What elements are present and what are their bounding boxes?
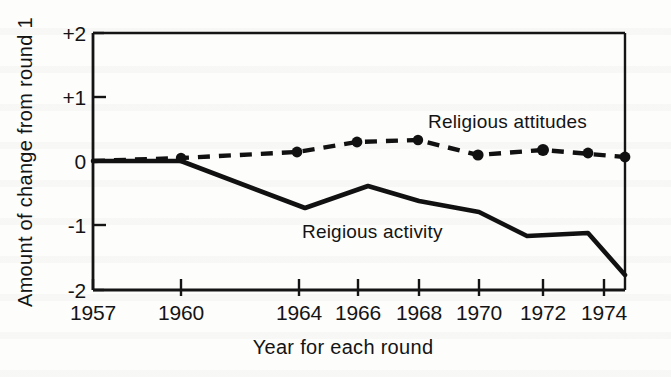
x-tick-label-1968: 1968 — [396, 301, 442, 324]
series-line-reigious-activity — [93, 161, 625, 275]
x-axis-title: Year for each round — [253, 336, 434, 358]
y-tick-label-zero: 0 — [75, 150, 86, 173]
data-point-marker — [292, 147, 303, 158]
x-tick-label-1972: 1972 — [520, 301, 566, 324]
data-point-marker — [620, 152, 631, 163]
x-tick-label-1964: 1964 — [276, 301, 322, 324]
series-label-reigious-activity: Reigious activity — [302, 221, 443, 242]
data-point-marker — [352, 137, 363, 148]
y-tick-label-minus2: -2 — [68, 279, 86, 302]
y-tick-labels: +2 +1 0 -1 -2 — [62, 22, 86, 302]
data-point-marker — [583, 148, 594, 159]
data-point-marker — [537, 144, 549, 156]
line-chart: +2 +1 0 -1 -2 1957 1960 1964 1966 1968 1… — [0, 0, 671, 377]
series-label-religious-attitudes: Religious attitudes — [428, 111, 587, 132]
chart-figure: +2 +1 0 -1 -2 1957 1960 1964 1966 1968 1… — [0, 0, 671, 377]
x-tick-labels: 1957 1960 1964 1966 1968 1970 1972 1974 — [70, 301, 627, 324]
y-tick-label-plus1: +1 — [62, 86, 86, 109]
x-tick-label-1970: 1970 — [456, 301, 502, 324]
data-point-marker — [176, 153, 186, 163]
x-axis-ticks — [93, 279, 604, 296]
data-point-marker — [413, 135, 423, 145]
x-tick-label-1966: 1966 — [335, 301, 381, 324]
x-tick-label-1960: 1960 — [158, 301, 204, 324]
x-tick-label-1974: 1974 — [581, 301, 627, 324]
y-tick-label-minus1: -1 — [68, 214, 86, 237]
y-axis-title: Amount of change from round 1 — [14, 17, 36, 307]
data-point-marker — [472, 149, 483, 160]
series-markers-religious-attitudes — [176, 135, 631, 163]
x-tick-label-1957: 1957 — [70, 301, 116, 324]
y-tick-label-plus2: +2 — [62, 22, 86, 45]
